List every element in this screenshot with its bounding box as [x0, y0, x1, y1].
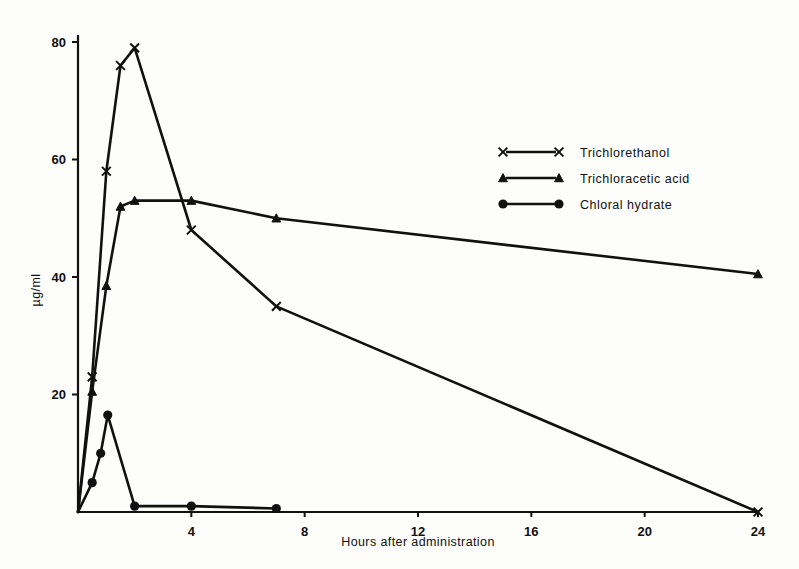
legend-marker-circle: [554, 199, 563, 208]
y-tick-label: 20: [52, 387, 66, 402]
y-axis-title: µg/ml: [29, 274, 43, 307]
series-line: [78, 48, 758, 512]
x-tick-label: 20: [637, 524, 651, 539]
series-2: [78, 196, 762, 512]
chart-figure: 20406080 4812162024 µg/ml Hours after ad…: [0, 0, 799, 569]
series-layer: [78, 43, 762, 516]
legend-entry: Trichlorethanol: [499, 146, 670, 160]
chart-canvas: 20406080 4812162024 µg/ml Hours after ad…: [0, 0, 799, 569]
x-tick-label: 4: [188, 524, 196, 539]
circle-marker: [88, 478, 97, 487]
legend-label: Chloral hydrate: [580, 198, 672, 212]
legend-entry: Trichloracetic acid: [499, 172, 690, 186]
series-line: [78, 415, 276, 512]
axes-group: [78, 36, 758, 512]
chart-legend: TrichlorethanolTrichloracetic acidChlora…: [498, 146, 689, 212]
y-axis-ticks: 20406080: [52, 35, 78, 403]
series-1: [78, 43, 762, 516]
circle-marker: [96, 449, 105, 458]
legend-entry: Chloral hydrate: [498, 198, 672, 212]
triangle-marker: [88, 387, 97, 395]
x-tick-label: 24: [751, 524, 766, 539]
x-tick-label: 16: [524, 524, 538, 539]
legend-label: Trichloracetic acid: [580, 172, 690, 186]
series-line: [78, 201, 758, 512]
circle-marker: [130, 502, 139, 511]
triangle-marker: [102, 281, 111, 289]
x-axis-title: Hours after administration: [341, 535, 495, 549]
y-tick-label: 60: [52, 152, 66, 167]
legend-label: Trichlorethanol: [580, 146, 670, 160]
series-3: [78, 410, 281, 513]
circle-marker: [272, 504, 281, 513]
legend-marker-circle: [498, 199, 507, 208]
circle-marker: [103, 410, 112, 419]
x-tick-label: 8: [301, 524, 308, 539]
y-tick-label: 80: [52, 35, 66, 50]
circle-marker: [187, 502, 196, 511]
y-tick-label: 40: [52, 270, 66, 285]
